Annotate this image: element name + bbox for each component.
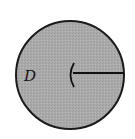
region-label-d: D [23, 67, 36, 85]
disk-diagram: D [0, 0, 135, 139]
